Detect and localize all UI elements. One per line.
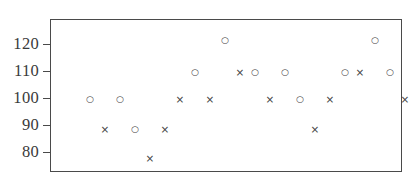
circle-marker-icon: ○ [86,95,94,104]
circle-marker-icon: ○ [191,68,199,77]
cross-marker-icon: × [146,153,155,164]
cross-marker-icon: × [326,94,335,105]
circle-marker-icon: ○ [281,68,289,77]
y-axis-label-80: 80 [0,144,39,161]
cross-marker-icon: × [176,94,185,105]
cross-marker-icon: × [401,94,410,105]
circle-marker-icon: ○ [221,35,229,44]
circle-marker-icon: ○ [131,124,139,133]
cross-marker-icon: × [101,123,110,134]
y-axis-label-100: 100 [0,90,39,107]
circle-marker-icon: ○ [251,68,259,77]
plot-area-frame: ○×○○×××○×○×○×○○××○○×○× [50,19,402,172]
scatter-plot-figure: 1201101009080 ○×○○×××○×○×○×○○××○○×○× [0,0,416,185]
cross-marker-icon: × [206,94,215,105]
circle-marker-icon: ○ [116,95,124,104]
cross-marker-icon: × [236,67,245,78]
cross-marker-icon: × [266,94,275,105]
y-axis-label-90: 90 [0,117,39,134]
circle-marker-icon: ○ [296,95,304,104]
y-axis-label-120: 120 [0,36,39,53]
cross-marker-icon: × [311,123,320,134]
cross-marker-icon: × [356,67,365,78]
circle-marker-icon: ○ [341,68,349,77]
y-axis-label-110: 110 [0,63,39,80]
circle-marker-icon: ○ [371,35,379,44]
cross-marker-icon: × [161,123,170,134]
circle-marker-icon: ○ [386,68,394,77]
